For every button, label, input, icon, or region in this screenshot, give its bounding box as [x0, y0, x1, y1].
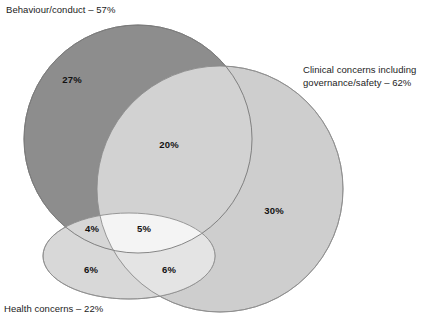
region-value-clinical-only: 30%: [264, 205, 284, 216]
venn-diagram-canvas: [0, 0, 429, 326]
set-label-clinical: Clinical concerns including governance/s…: [303, 64, 416, 89]
region-value-clinical-health: 6%: [162, 264, 176, 275]
region-value-behaviour-health: 4%: [85, 223, 99, 234]
venn-diagram-figure: Behaviour/conduct – 57% Clinical concern…: [0, 0, 429, 326]
region-value-all-three: 5%: [137, 223, 151, 234]
region-value-behaviour-only: 27%: [62, 74, 82, 85]
set-label-behaviour: Behaviour/conduct – 57%: [6, 4, 115, 17]
set-label-health: Health concerns – 22%: [4, 303, 103, 316]
region-value-behaviour-clinical: 20%: [159, 139, 179, 150]
region-value-health-only: 6%: [84, 264, 98, 275]
